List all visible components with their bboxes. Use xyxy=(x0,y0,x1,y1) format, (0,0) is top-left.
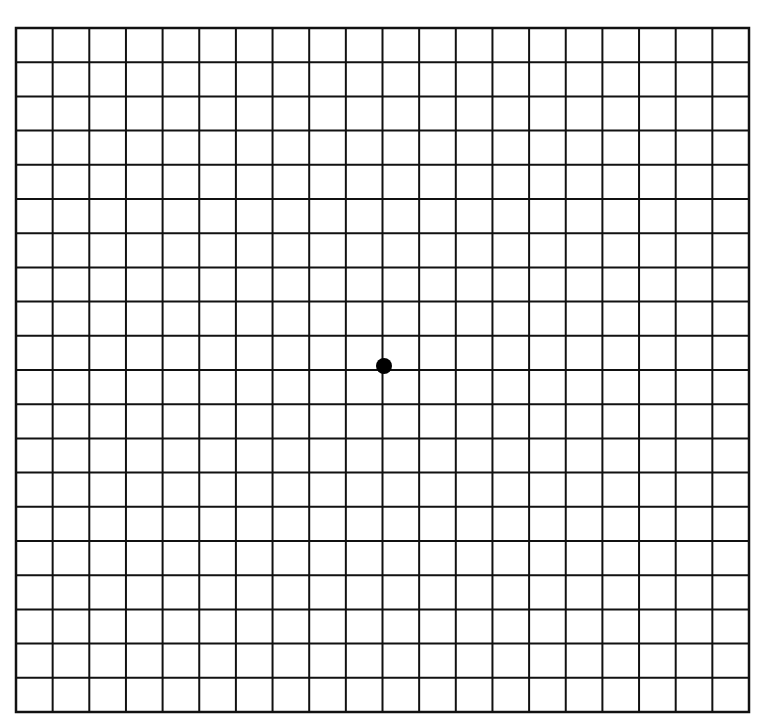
amsler-grid xyxy=(0,0,770,726)
center-fixation-dot xyxy=(376,358,392,374)
